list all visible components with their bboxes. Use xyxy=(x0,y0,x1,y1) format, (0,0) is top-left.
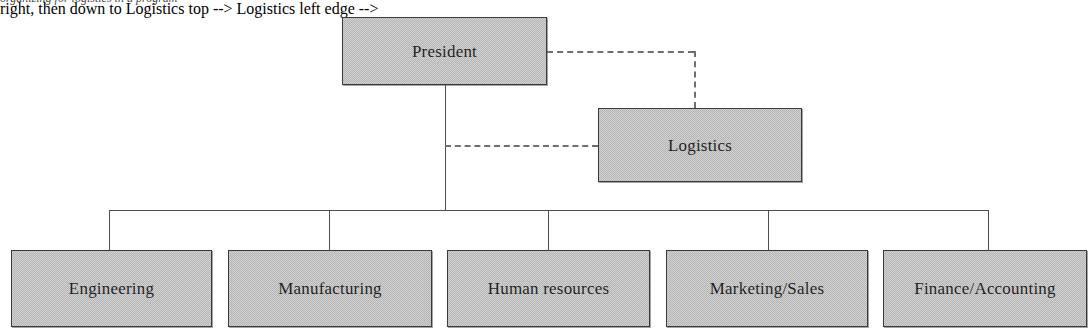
connector-dashed-president-to-logistics-top xyxy=(547,51,694,53)
connector-president-trunk xyxy=(445,85,446,210)
node-manufacturing[interactable]: Manufacturing xyxy=(228,250,432,327)
node-finance-accounting[interactable]: Finance/Accounting xyxy=(883,250,1087,327)
node-marketing-sales-label: Marketing/Sales xyxy=(710,280,824,297)
connector-dashed-trunk-to-logistics-left xyxy=(445,145,598,147)
node-president-label: President xyxy=(412,43,477,60)
node-human-resources[interactable]: Human resources xyxy=(447,250,650,327)
connector-drop-finance-accounting xyxy=(988,210,989,250)
connector-drop-marketing-sales xyxy=(768,210,769,250)
connector-department-bus xyxy=(109,210,989,211)
node-logistics-label: Logistics xyxy=(668,137,732,154)
node-manufacturing-label: Manufacturing xyxy=(278,280,382,297)
caption-fragment: organizing for logistics in a program xyxy=(0,0,420,7)
node-engineering-label: Engineering xyxy=(69,280,154,297)
node-finance-accounting-label: Finance/Accounting xyxy=(914,280,1055,297)
connector-drop-human-resources xyxy=(548,210,549,250)
node-engineering[interactable]: Engineering xyxy=(11,250,212,327)
connector-drop-manufacturing xyxy=(329,210,330,250)
connector-drop-engineering xyxy=(109,210,110,250)
node-human-resources-label: Human resources xyxy=(488,280,610,297)
node-marketing-sales[interactable]: Marketing/Sales xyxy=(666,250,868,327)
node-logistics[interactable]: Logistics xyxy=(598,108,802,182)
org-chart-canvas: organizing for logistics in a program ri… xyxy=(0,0,1092,335)
node-president[interactable]: President xyxy=(342,17,547,85)
connector-dashed-down-to-logistics xyxy=(694,51,696,108)
